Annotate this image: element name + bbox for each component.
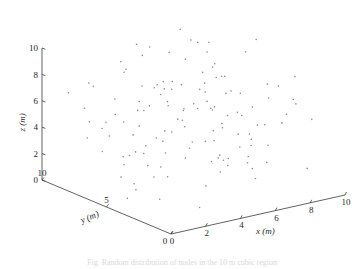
x-tick-label-4: 4 — [239, 220, 244, 230]
scatter-point — [267, 83, 269, 85]
scatter-point — [193, 103, 195, 105]
y-axis-title: y (m) — [78, 209, 100, 226]
scatter-point — [197, 42, 199, 44]
x-tick-label-6: 6 — [274, 213, 279, 223]
scatter-point — [311, 119, 313, 121]
scatter-point — [228, 158, 230, 160]
scatter-point — [267, 144, 269, 146]
scatter-point — [179, 28, 181, 30]
scatter-point — [183, 108, 185, 110]
scatter-point — [145, 145, 147, 147]
scatter-point — [212, 109, 214, 111]
scatter-point — [184, 126, 186, 128]
x-tick-10 — [345, 192, 347, 195]
scatter-point — [212, 66, 214, 68]
scatter-point — [84, 107, 86, 109]
scatter-point — [138, 125, 140, 127]
scatter-point — [165, 152, 167, 154]
scatter-point — [224, 75, 226, 77]
scatter-point — [138, 101, 140, 103]
scatter-point — [109, 135, 111, 137]
z-tick-label-6: 6 — [34, 96, 39, 106]
scatter-point — [192, 141, 194, 143]
scatter-point — [135, 189, 137, 191]
z-tick-2 — [42, 154, 45, 155]
scatter-point — [149, 46, 151, 48]
scatter-point — [219, 171, 221, 173]
scatter-point — [266, 162, 268, 164]
x-tick-label-10: 10 — [342, 197, 352, 207]
scatter-point — [294, 76, 296, 78]
scatter-point — [292, 99, 294, 101]
scatter-point — [149, 105, 151, 107]
scatter-point — [160, 166, 162, 168]
y-tick-label-5: 5 — [104, 195, 109, 205]
scatter-point — [268, 97, 270, 99]
y-tick-label-0: 0 — [163, 236, 168, 246]
scatter-point — [129, 155, 131, 157]
scatter-point — [239, 146, 241, 148]
scatter-point — [102, 151, 104, 153]
scatter-point — [247, 156, 249, 158]
scatter-point — [167, 101, 169, 103]
tick-labels: 024681005100246810 — [29, 43, 351, 246]
scatter-point — [249, 133, 251, 135]
scatter-point — [125, 68, 127, 70]
y-tick-label-10: 10 — [38, 168, 48, 178]
scatter-point — [159, 198, 161, 200]
scatter-point — [143, 110, 145, 112]
scatter-point — [164, 130, 166, 132]
scatter-point — [120, 61, 122, 63]
scatter-points-layer — [68, 28, 313, 208]
scatter-point — [202, 72, 204, 74]
scatter-point — [156, 84, 158, 86]
scatter-point — [123, 164, 125, 166]
scatter-point — [137, 110, 139, 112]
scatter-point — [255, 178, 257, 180]
z-tick-label-4: 4 — [34, 122, 39, 132]
scatter-point — [190, 39, 192, 41]
scatter-point — [204, 91, 206, 93]
scatter-point — [225, 93, 227, 95]
z-tick-label-10: 10 — [29, 43, 39, 53]
scatter-point — [213, 130, 215, 132]
scatter-point — [127, 198, 129, 200]
z-tick-6 — [42, 101, 45, 102]
scatter-point — [211, 161, 213, 163]
z-tick-8 — [42, 74, 45, 75]
z-tick-0 — [42, 180, 45, 181]
scatter-point — [205, 141, 207, 143]
scatter-point — [105, 121, 107, 123]
scatter-point — [183, 110, 185, 112]
scatter-point — [132, 134, 134, 136]
scatter-point — [154, 87, 156, 89]
plot-canvas: 024681005100246810 x (m)y (m)z (m) — [0, 0, 364, 269]
scatter-point — [306, 168, 308, 170]
scatter-point — [142, 55, 144, 57]
scatter-point — [227, 115, 229, 117]
scatter-point — [252, 106, 254, 108]
scatter-point — [278, 85, 280, 87]
x-tick-label-2: 2 — [205, 228, 210, 238]
scatter-point — [122, 156, 124, 158]
z-tick-label-2: 2 — [34, 149, 39, 159]
scatter-point — [217, 157, 219, 159]
scatter-point — [136, 44, 138, 46]
scatter-point — [222, 127, 224, 129]
figure-3d-scatter-plot: 024681005100246810 x (m)y (m)z (m) Fig. … — [0, 0, 364, 269]
scatter-point — [221, 75, 223, 77]
scatter-point — [215, 77, 217, 79]
scatter-point — [101, 128, 103, 130]
scatter-point — [197, 108, 199, 110]
scatter-point — [223, 159, 225, 161]
scatter-point — [199, 89, 201, 91]
scatter-point — [221, 123, 223, 125]
scatter-point — [92, 86, 94, 88]
scatter-point — [184, 157, 186, 159]
scatter-point — [208, 42, 210, 44]
scatter-point — [115, 114, 117, 116]
scatter-point — [206, 51, 208, 53]
scatter-point — [162, 141, 164, 143]
scatter-point — [181, 84, 183, 86]
scatter-point — [153, 176, 155, 178]
